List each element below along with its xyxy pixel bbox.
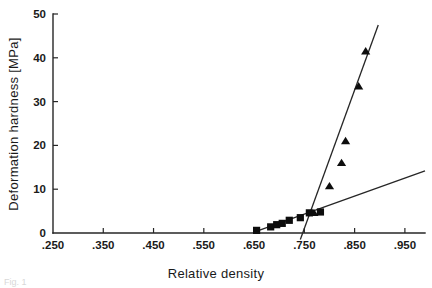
- x-tick-label: .750: [293, 239, 315, 251]
- x-axis-ticks: .250.350.450.550.650.750.850.950: [42, 228, 416, 251]
- data-point-triangle: [325, 182, 334, 189]
- y-tick-label: 50: [33, 8, 46, 20]
- x-tick-label: .550: [193, 239, 215, 251]
- data-point-square: [317, 208, 324, 215]
- x-axis-title: Relative density: [168, 266, 265, 281]
- data-point-square: [253, 227, 260, 234]
- y-axis-ticks: 01020304050: [33, 8, 58, 239]
- y-tick-label: 40: [33, 52, 46, 64]
- x-tick-label: .850: [343, 239, 365, 251]
- data-point-square: [297, 214, 304, 221]
- y-tick-label: 30: [33, 96, 46, 108]
- x-tick-label: .350: [92, 239, 114, 251]
- data-point-square: [279, 220, 286, 227]
- fit-line-steep-fit: [300, 25, 378, 240]
- chart-figure: .250.350.450.550.650.750.850.950 0102030…: [0, 0, 432, 288]
- y-tick-label: 0: [40, 227, 46, 239]
- data-point-triangle: [341, 137, 350, 144]
- x-tick-label: .950: [394, 239, 416, 251]
- x-tick-label: .450: [142, 239, 164, 251]
- x-tick-label: .250: [42, 239, 64, 251]
- data-point-triangle: [354, 82, 363, 89]
- x-tick-label: .650: [243, 239, 265, 251]
- deformation-hardness-scatter-chart: .250.350.450.550.650.750.850.950 0102030…: [0, 0, 432, 288]
- data-markers-group: [253, 47, 370, 234]
- y-tick-label: 20: [33, 139, 46, 151]
- figure-caption-ghost: Fig. 1: [4, 277, 27, 287]
- fit-lines-group: [254, 25, 425, 240]
- y-axis-title: Deformation hardness [MPa]: [6, 37, 21, 210]
- data-point-triangle: [337, 159, 346, 166]
- y-tick-label: 10: [33, 183, 46, 195]
- data-point-square: [286, 217, 293, 224]
